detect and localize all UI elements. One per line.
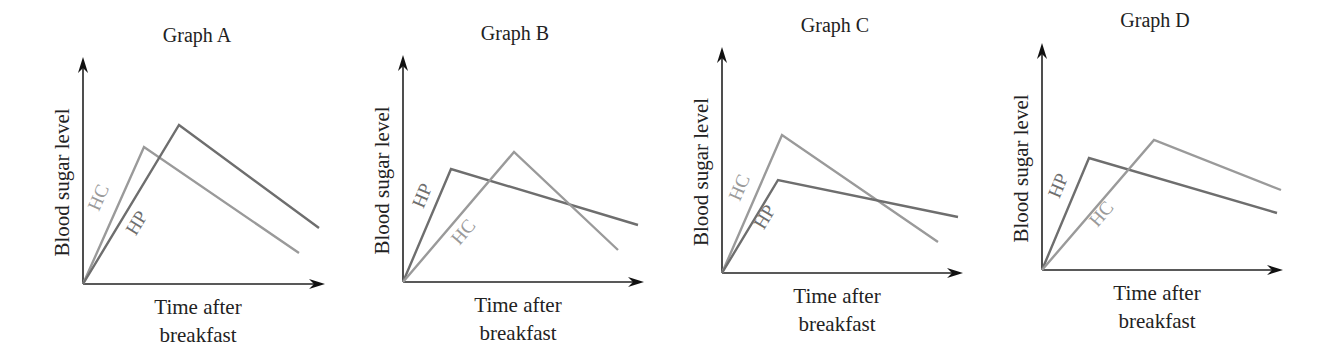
series-line-hp	[403, 169, 638, 282]
chart-graph-d: Graph DBlood sugar levelTime afterbreakf…	[1009, 9, 1283, 333]
chart-title: Graph D	[1120, 9, 1189, 32]
x-axis-label-line: breakfast	[799, 312, 876, 336]
y-axis-label: Blood sugar level	[370, 106, 394, 254]
x-axis-label-line: Time after	[1113, 281, 1200, 305]
graphs-canvas: Graph ABlood sugar levelTime afterbreakf…	[0, 0, 1320, 364]
x-axis-label-line: Time after	[154, 295, 241, 319]
series-label-hc: HC	[724, 171, 754, 204]
series-label-hc: HC	[1085, 197, 1118, 231]
series-line-hc	[403, 152, 618, 282]
x-axis-label-line: breakfast	[160, 323, 237, 347]
series-label-hp: HP	[749, 201, 780, 233]
chart-graph-a: Graph ABlood sugar levelTime afterbreakf…	[50, 24, 325, 347]
series-label-hp: HP	[408, 180, 437, 211]
chart-title: Graph B	[481, 22, 549, 45]
chart-graph-c: Graph CBlood sugar levelTime afterbreakf…	[689, 14, 963, 336]
series-line-hc	[83, 147, 299, 284]
series-label-hp: HP	[1044, 170, 1073, 201]
x-axis-label-line: Time after	[474, 293, 561, 317]
series-label-hc: HC	[446, 215, 479, 249]
x-axis-label-line: breakfast	[480, 321, 557, 345]
y-axis-label: Blood sugar level	[50, 108, 74, 256]
chart-title: Graph C	[801, 14, 869, 37]
y-axis-label: Blood sugar level	[1009, 94, 1033, 242]
series-line-hc	[722, 135, 938, 273]
y-axis-label: Blood sugar level	[689, 98, 713, 246]
chart-graph-b: Graph BBlood sugar levelTime afterbreakf…	[370, 22, 644, 345]
series-line-hc	[1042, 140, 1281, 270]
series-label-hc: HC	[83, 181, 113, 214]
chart-title: Graph A	[163, 24, 232, 47]
x-axis-label-line: breakfast	[1119, 309, 1196, 333]
x-axis-label-line: Time after	[793, 284, 880, 308]
